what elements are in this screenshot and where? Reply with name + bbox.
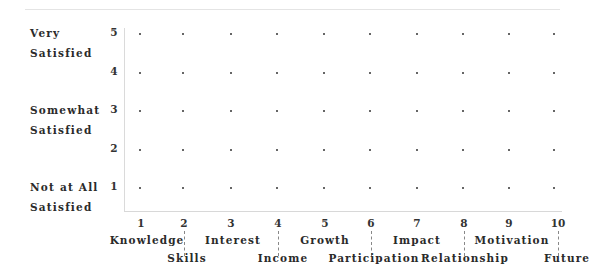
grid-dot	[323, 72, 325, 74]
grid-dot	[139, 110, 141, 112]
y-label-very: Very	[30, 27, 60, 39]
y-axis	[124, 28, 125, 212]
y-tick-4: 4	[109, 65, 119, 77]
x-label-motivation: Motivation	[475, 234, 550, 246]
grid-dot	[230, 110, 232, 112]
grid-dot	[182, 149, 184, 151]
x-label-future: Future	[544, 252, 590, 264]
grid-dot	[416, 33, 418, 35]
grid-dot	[553, 110, 555, 112]
y-tick-1: 1	[109, 180, 119, 192]
x-tick-3: 3	[221, 217, 241, 229]
x-tick-7: 7	[407, 217, 427, 229]
grid-dot	[182, 33, 184, 35]
grid-dot	[230, 33, 232, 35]
grid-dot	[323, 110, 325, 112]
grid-dot	[276, 149, 278, 151]
grid-dot	[182, 187, 184, 189]
grid-dot	[462, 33, 464, 35]
x-tick-9: 9	[499, 217, 519, 229]
grid-dot	[230, 187, 232, 189]
grid-dot	[230, 149, 232, 151]
x-tick-1: 1	[131, 217, 151, 229]
grid-dot	[369, 187, 371, 189]
grid-dot	[323, 33, 325, 35]
grid-dot	[553, 149, 555, 151]
y-label-very-satisfied: Satisfied	[30, 47, 92, 59]
x-label-impact: Impact	[393, 234, 441, 246]
x-tick-6: 6	[361, 217, 381, 229]
grid-dot	[369, 110, 371, 112]
grid-dot	[276, 33, 278, 35]
grid-dot	[553, 72, 555, 74]
y-label-somewhat-satisfied: Satisfied	[30, 124, 92, 136]
x-label-skills: Skills	[167, 252, 206, 264]
y-tick-5: 5	[109, 26, 119, 38]
x-label-relationship: Relationship	[421, 252, 509, 264]
x-label-interest: Interest	[205, 234, 261, 246]
y-label-somewhat: Somewhat	[30, 104, 100, 116]
y-label-not-at-all: Not at All	[30, 181, 99, 193]
x-tick-5: 5	[315, 217, 335, 229]
x-label-participation: Participation	[328, 252, 419, 264]
y-label-not-at-all-satisfied: Satisfied	[30, 201, 92, 213]
grid-dot	[508, 149, 510, 151]
x-tick-8: 8	[454, 217, 474, 229]
grid-dot	[369, 33, 371, 35]
grid-dot	[553, 33, 555, 35]
grid-dot	[139, 149, 141, 151]
grid-dot	[182, 110, 184, 112]
grid-dot	[416, 110, 418, 112]
grid-dot	[416, 149, 418, 151]
grid-dot	[323, 187, 325, 189]
grid-dot	[462, 72, 464, 74]
grid-dot	[416, 72, 418, 74]
grid-dot	[508, 33, 510, 35]
grid-dot	[139, 33, 141, 35]
grid-dot	[323, 149, 325, 151]
x-label-income: Income	[258, 252, 308, 264]
y-tick-3: 3	[109, 103, 119, 115]
grid-dot	[276, 110, 278, 112]
grid-dot	[416, 187, 418, 189]
x-axis	[124, 211, 562, 212]
grid-dot	[276, 72, 278, 74]
grid-dot	[369, 72, 371, 74]
grid-dot	[508, 72, 510, 74]
y-tick-2: 2	[109, 142, 119, 154]
x-label-growth: Growth	[300, 234, 350, 246]
x-tick-4: 4	[268, 217, 288, 229]
grid-dot	[276, 187, 278, 189]
grid-dot	[182, 72, 184, 74]
x-tick-10: 10	[548, 217, 568, 229]
x-tick-2: 2	[174, 217, 194, 229]
grid-dot	[230, 72, 232, 74]
grid-dot	[139, 187, 141, 189]
grid-dot	[508, 187, 510, 189]
grid-dot	[462, 149, 464, 151]
top-rule	[25, 9, 560, 10]
grid-dot	[139, 72, 141, 74]
grid-dot	[462, 110, 464, 112]
grid-dot	[462, 187, 464, 189]
x-label-knowledge: Knowledge	[110, 234, 185, 246]
grid-dot	[369, 149, 371, 151]
grid-dot	[508, 110, 510, 112]
grid-dot	[553, 187, 555, 189]
